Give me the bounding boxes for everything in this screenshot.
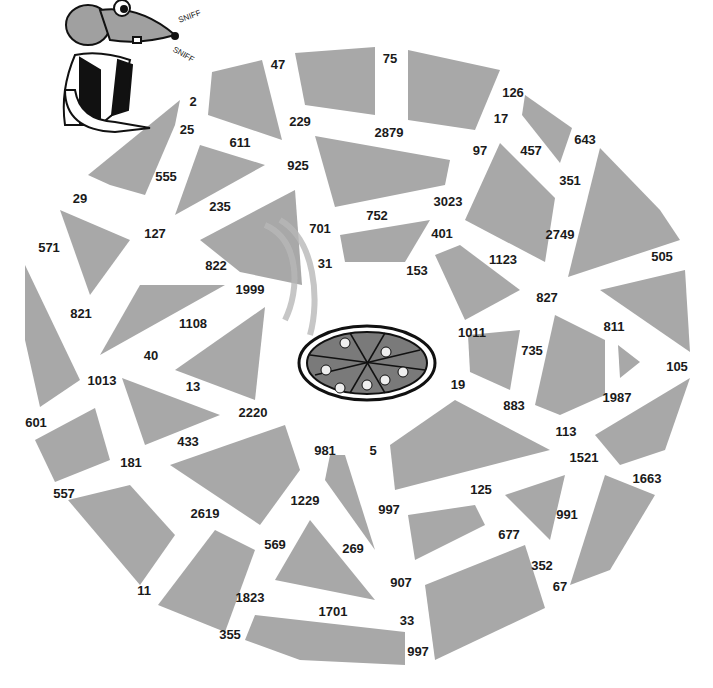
maze-number[interactable]: 2220 <box>239 406 268 419</box>
maze-board <box>0 0 713 688</box>
maze-number[interactable]: 601 <box>25 416 47 429</box>
maze-number[interactable]: 811 <box>604 320 625 333</box>
maze-number[interactable]: 611 <box>230 136 251 149</box>
maze-number[interactable]: 355 <box>219 628 241 641</box>
maze-number[interactable]: 97 <box>473 144 487 157</box>
maze-number[interactable]: 5 <box>369 444 376 457</box>
maze-number[interactable]: 821 <box>70 307 92 320</box>
maze-number[interactable]: 181 <box>120 456 142 469</box>
mouse-character-icon <box>64 0 178 132</box>
maze-number[interactable]: 827 <box>536 291 558 304</box>
maze-number[interactable]: 31 <box>318 257 332 270</box>
maze-number[interactable]: 127 <box>144 227 166 240</box>
maze-number[interactable]: 505 <box>651 250 673 263</box>
maze-number[interactable]: 557 <box>53 487 75 500</box>
maze-number[interactable]: 569 <box>264 538 286 551</box>
maze-number[interactable]: 997 <box>407 645 429 658</box>
maze-number[interactable]: 125 <box>470 483 492 496</box>
maze-number[interactable]: 67 <box>553 580 567 593</box>
maze-number[interactable]: 677 <box>498 528 520 541</box>
maze-number[interactable]: 883 <box>503 399 525 412</box>
maze-number[interactable]: 269 <box>342 542 364 555</box>
maze-number[interactable]: 457 <box>520 144 542 157</box>
maze-number[interactable]: 2749 <box>546 228 575 241</box>
maze-number[interactable]: 1987 <box>603 391 632 404</box>
maze-number[interactable]: 13 <box>186 380 200 393</box>
maze-number[interactable]: 1229 <box>291 494 320 507</box>
maze-number[interactable]: 17 <box>494 112 508 125</box>
maze-number[interactable]: 229 <box>289 115 311 128</box>
maze-number[interactable]: 351 <box>559 174 581 187</box>
maze-number[interactable]: 1663 <box>633 472 662 485</box>
maze-number[interactable]: 991 <box>556 508 578 521</box>
maze-number[interactable]: 401 <box>431 227 453 240</box>
maze-number[interactable]: 105 <box>666 360 688 373</box>
maze-number[interactable]: 981 <box>314 444 336 457</box>
maze-number[interactable]: 25 <box>180 123 194 136</box>
maze-number[interactable]: 997 <box>378 503 400 516</box>
maze-number[interactable]: 1823 <box>236 591 265 604</box>
maze-number[interactable]: 75 <box>383 52 397 65</box>
maze-number[interactable]: 2879 <box>375 126 404 139</box>
maze-number[interactable]: 3023 <box>434 195 463 208</box>
maze-number[interactable]: 29 <box>73 192 87 205</box>
maze-number[interactable]: 1013 <box>88 374 117 387</box>
maze-number[interactable]: 2 <box>189 95 196 108</box>
maze-number[interactable]: 571 <box>38 241 60 254</box>
maze-number[interactable]: 1999 <box>236 283 265 296</box>
maze-number[interactable]: 40 <box>144 349 158 362</box>
maze-number[interactable]: 1108 <box>179 317 207 330</box>
maze-number[interactable]: 2619 <box>191 507 220 520</box>
maze-number[interactable]: 153 <box>406 264 428 277</box>
maze-number[interactable]: 113 <box>556 425 577 438</box>
maze-number[interactable]: 925 <box>287 159 309 172</box>
maze-number[interactable]: 1011 <box>458 326 486 339</box>
maze-number[interactable]: 11 <box>137 584 151 597</box>
maze-number[interactable]: 352 <box>531 559 553 572</box>
maze-number[interactable]: 433 <box>177 435 199 448</box>
maze-number[interactable]: 643 <box>574 133 596 146</box>
maze-number[interactable]: 701 <box>309 222 331 235</box>
maze-number[interactable]: 555 <box>155 170 177 183</box>
maze-number[interactable]: 1701 <box>319 605 348 618</box>
maze-number[interactable]: 752 <box>366 209 388 222</box>
maze-number[interactable]: 235 <box>209 200 231 213</box>
pizza-icon <box>299 326 435 400</box>
maze-number[interactable]: 907 <box>390 576 412 589</box>
maze-number[interactable]: 735 <box>521 344 543 357</box>
maze-number[interactable]: 822 <box>205 259 227 272</box>
maze-number[interactable]: 19 <box>451 378 465 391</box>
maze-number[interactable]: 126 <box>502 86 524 99</box>
maze-number[interactable]: 1521 <box>570 451 599 464</box>
maze-number[interactable]: 33 <box>400 614 414 627</box>
maze-number[interactable]: 1123 <box>489 253 517 266</box>
maze-number[interactable]: 47 <box>271 58 285 71</box>
